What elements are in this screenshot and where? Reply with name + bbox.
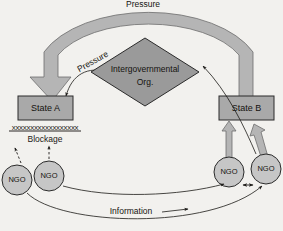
ngo-a2-label: NGO <box>40 171 57 180</box>
igo-label-line2: Org. <box>137 77 154 87</box>
igo-label-line1: Intergovernmental <box>111 64 180 74</box>
diagram-canvas: Pressure Pressure Intergovernmental Org.… <box>0 0 283 231</box>
node-ngo-b2[interactable]: NGO <box>251 154 281 184</box>
node-state-a[interactable]: State A <box>18 96 73 120</box>
pressure-arc-label: Pressure <box>126 0 160 9</box>
boomerang-diagram-svg: Pressure Pressure Intergovernmental Org.… <box>0 0 283 231</box>
blockage-label: Blockage <box>28 134 63 144</box>
state-a-label: State A <box>31 103 60 113</box>
ngo-a1-label: NGO <box>8 175 25 184</box>
ngo-b1-label: NGO <box>220 167 237 176</box>
information-label: Information <box>110 206 153 216</box>
node-ngo-b1[interactable]: NGO <box>214 157 244 187</box>
ngo-b2-label: NGO <box>257 164 274 173</box>
node-ngo-a2[interactable]: NGO <box>34 161 64 191</box>
node-state-b[interactable]: State B <box>219 96 274 120</box>
node-ngo-a1[interactable]: NGO <box>2 165 32 195</box>
state-b-label: State B <box>232 103 262 113</box>
